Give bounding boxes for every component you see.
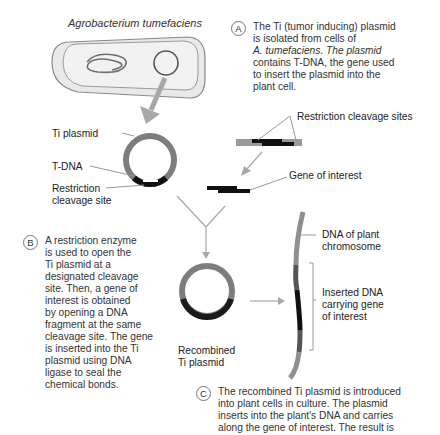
text-line: The Ti (tumor inducing) plasmid [253,21,438,33]
label-restriction-sites: Restriction cleavage sites [297,111,413,123]
plant-chromosome [290,212,303,378]
step-a-text: The Ti (tumor inducing) plasmid is isola… [253,21,438,93]
gene-of-interest [207,186,250,193]
text-line: is used to open the [45,247,170,259]
label-plant-dna: DNA of plant chromosome [322,229,381,253]
dna-fragment [236,139,302,146]
label-gene-of-interest: Gene of interest [289,170,362,182]
text-line: fragment at the same [45,319,170,331]
label-line: DNA of plant [322,229,381,241]
label-t-dna: T-DNA [52,161,83,173]
text-line: cleavage site. The gene [45,331,170,343]
ti-plasmid [126,136,174,184]
text-line: Ti plasmid at a [45,259,170,271]
label-line: of interest [322,311,384,323]
text-line: A restriction enzyme [45,235,170,247]
label-ti-plasmid: Ti plasmid [52,128,98,140]
label-line: Restriction [52,183,111,195]
organism-title: Agrobacterium tumefaciens [68,17,202,29]
text-line: ligase to seal the [45,367,170,379]
merge-arrow [177,196,225,259]
label-line: Ti plasmid [178,357,235,369]
text-line: designated cleavage [45,271,170,283]
text-line: by opening a DNA [45,307,170,319]
text-line: contains T-DNA, the gene used [253,57,438,69]
text-line: into plant cells in culture. The plasmid [218,398,438,410]
text-line: is inserted into the Ti [45,343,170,355]
text-line: The recombined Ti plasmid is introduced [218,386,438,398]
step-c-text: The recombined Ti plasmid is introduced … [218,386,438,434]
recombined-plasmid [182,266,232,317]
label-recombined-plasmid: Recombined Ti plasmid [178,345,235,369]
step-marker-a: A [231,21,246,36]
label-line: chromosome [322,241,381,253]
step-marker-b: B [23,235,38,250]
label-restriction-site: Restriction cleavage site [52,183,111,207]
step-b-text: A restriction enzyme is used to open the… [45,235,170,391]
bacterium-cell [52,37,205,98]
text-line: inserts into the plant's DNA and carries [218,410,438,422]
label-line: carrying gene [322,299,384,311]
text-line: along the gene of interest. The result i… [218,422,438,434]
label-line: Recombined [178,345,235,357]
text-line: interest is obtained [45,295,170,307]
text-line: plant cell. [253,81,438,93]
label-inserted-dna: Inserted DNA carrying gene of interest [322,287,384,323]
label-line: Inserted DNA [322,287,384,299]
text-line: is isolated from cells of [253,33,438,45]
text-line: A. tumefaciens. The plasmid [253,45,438,57]
label-line: cleavage site [52,195,111,207]
text-line: plasmid using DNA [45,355,170,367]
step-marker-c: C [196,386,211,401]
text-line: chemical bonds. [45,379,170,391]
text-line: site. Then, a gene of [45,283,170,295]
text-line: to insert the plasmid into the [253,69,438,81]
